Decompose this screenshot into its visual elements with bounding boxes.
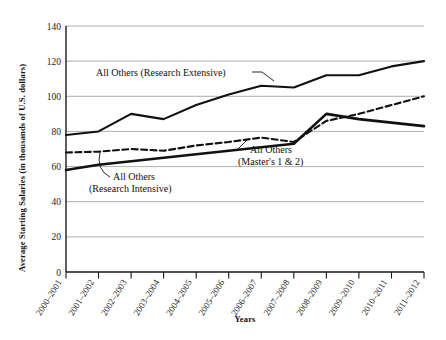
line-chart: Average Starting Salaries (in thousands … — [0, 0, 446, 340]
y-axis-title: Average Starting Salaries (in thousands … — [17, 64, 27, 272]
y-tick-60: 60 — [52, 162, 62, 172]
annotation-masters-line1: All Others — [250, 144, 292, 155]
annotation-research-extensive: All Others (Research Extensive) — [96, 67, 226, 79]
y-tick-40: 40 — [52, 197, 62, 207]
annotation-research-intensive-line2: (Research Intensive) — [89, 183, 171, 195]
y-tick-140: 140 — [47, 22, 62, 32]
y-tick-80: 80 — [52, 127, 62, 137]
x-axis-title: Years — [234, 314, 256, 324]
y-tick-120: 120 — [47, 57, 62, 67]
y-tick-0: 0 — [56, 268, 61, 278]
chart-figure: Average Starting Salaries (in thousands … — [0, 0, 446, 340]
annotation-masters-line2: (Master's 1 & 2) — [238, 156, 303, 168]
annotation-research-intensive-line1: All Others — [113, 171, 155, 182]
y-tick-100: 100 — [47, 92, 62, 102]
y-tick-20: 20 — [52, 232, 62, 242]
